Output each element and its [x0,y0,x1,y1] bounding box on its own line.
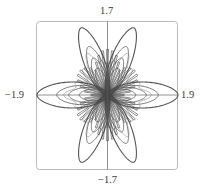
center-dense-band [106,62,108,127]
x-max-label: 1.9 [181,89,194,100]
y-max-label: 1.7 [100,5,113,16]
polar-plot [0,0,205,192]
x-min-label: −1.9 [5,89,24,100]
y-min-label: −1.7 [98,174,117,185]
